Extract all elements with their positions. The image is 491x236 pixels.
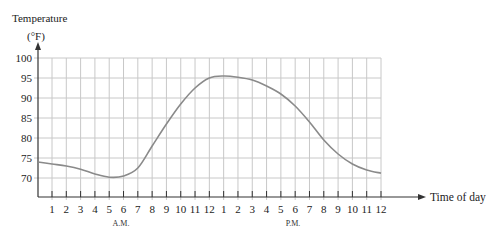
x-axis-title: Time of day (430, 191, 486, 204)
axes (35, 42, 426, 200)
x-tick-label: 1 (49, 203, 55, 215)
y-axis-unit: (°F) (27, 30, 45, 43)
x-tick-label: 7 (307, 203, 313, 215)
am-label: A.M. (113, 219, 130, 228)
y-tick-labels: 707580859095100 (16, 52, 33, 184)
y-tick-label: 100 (16, 52, 33, 64)
x-tick-labels: 123456789101112123456789101112 (49, 203, 386, 215)
x-tick-label: 1 (221, 203, 227, 215)
x-tick-label: 5 (278, 203, 284, 215)
x-tick-label: 6 (292, 203, 298, 215)
y-tick-label: 70 (21, 172, 33, 184)
x-tick-label: 11 (190, 203, 201, 215)
y-axis-title: Temperature (12, 12, 68, 24)
x-tick-label: 8 (321, 203, 327, 215)
x-tick-label: 2 (235, 203, 241, 215)
x-tick-label: 10 (347, 203, 359, 215)
axis-labels: Temperature (°F) Time of day A.M. P.M. (12, 12, 486, 228)
y-tick-label: 80 (21, 132, 33, 144)
x-tick-label: 12 (376, 203, 387, 215)
temperature-chart: Temperature (°F) Time of day A.M. P.M. 7… (0, 0, 491, 236)
x-tick-label: 11 (361, 203, 372, 215)
x-tick-label: 4 (92, 203, 98, 215)
x-tick-label: 2 (64, 203, 70, 215)
y-tick-label: 85 (21, 112, 33, 124)
x-tick-label: 9 (164, 203, 170, 215)
x-tick-label: 4 (264, 203, 270, 215)
x-tick-label: 10 (175, 203, 187, 215)
x-tick-label: 3 (78, 203, 84, 215)
y-tick-label: 75 (21, 152, 33, 164)
x-tick-label: 12 (204, 203, 215, 215)
x-tick-label: 5 (106, 203, 112, 215)
x-tick-label: 9 (335, 203, 341, 215)
y-axis-arrow-icon (35, 42, 41, 50)
y-tick-label: 95 (21, 72, 33, 84)
x-tick-label: 7 (135, 203, 141, 215)
x-tick-label: 6 (121, 203, 127, 215)
y-tick-label: 90 (21, 92, 33, 104)
pm-label: P.M. (286, 219, 301, 228)
x-axis-arrow-icon (418, 194, 426, 200)
x-tick-label: 8 (149, 203, 155, 215)
x-tick-label: 3 (250, 203, 256, 215)
